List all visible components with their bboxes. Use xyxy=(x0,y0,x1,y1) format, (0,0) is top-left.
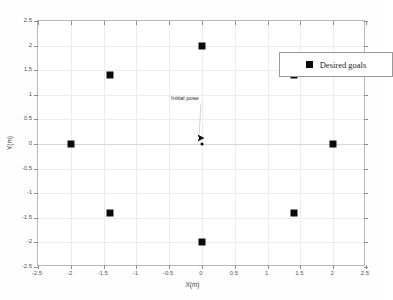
x-axis-title: X(m) xyxy=(0,281,385,288)
gridline-vertical xyxy=(136,21,137,265)
tick-y xyxy=(34,242,38,243)
tick-y xyxy=(364,21,368,22)
tick-y xyxy=(364,218,368,219)
gridline-vertical xyxy=(169,21,170,265)
x-tick-label: -2.5 xyxy=(32,270,42,276)
y-tick-label: 0 xyxy=(14,140,32,146)
tick-x xyxy=(300,265,301,269)
tick-x xyxy=(268,21,269,25)
tick-x xyxy=(268,265,269,269)
data-point-marker xyxy=(199,42,206,49)
tick-y xyxy=(364,242,368,243)
tick-y xyxy=(364,119,368,120)
tick-x xyxy=(104,21,105,25)
y-tick-label: -2 xyxy=(14,238,32,244)
tick-x xyxy=(104,265,105,269)
y-tick-label: 1.5 xyxy=(14,66,32,72)
y-tick-label: 1 xyxy=(14,91,32,97)
tick-x xyxy=(38,265,39,269)
gridline-vertical xyxy=(235,21,236,265)
x-tick-label: 2.5 xyxy=(361,270,369,276)
y-tick-label: 2 xyxy=(14,42,32,48)
tick-y xyxy=(364,169,368,170)
y-tick-label: -1 xyxy=(14,189,32,195)
tick-x xyxy=(300,21,301,25)
chart-legend: Desired goals xyxy=(279,52,393,77)
tick-x xyxy=(71,21,72,25)
tick-y xyxy=(34,95,38,96)
tick-y xyxy=(364,95,368,96)
tick-y xyxy=(34,70,38,71)
x-tick-label: 0.5 xyxy=(230,270,238,276)
initial-pose-point xyxy=(201,143,204,146)
tick-x xyxy=(169,265,170,269)
y-tick-label: -1.5 xyxy=(14,214,32,220)
x-tick-label: 0 xyxy=(199,270,202,276)
tick-x xyxy=(202,265,203,269)
tick-y xyxy=(34,193,38,194)
legend-swatch-desired-goals xyxy=(306,61,313,68)
tick-y xyxy=(364,193,368,194)
tick-x xyxy=(38,21,39,25)
gridline-horizontal xyxy=(38,218,364,219)
x-tick-label: -2 xyxy=(67,270,72,276)
tick-x xyxy=(71,265,72,269)
data-point-marker xyxy=(291,210,298,217)
tick-x xyxy=(136,21,137,25)
initial-pose-arrow-icon xyxy=(197,134,206,143)
tick-y xyxy=(34,21,38,22)
tick-y xyxy=(34,119,38,120)
x-tick-label: 2 xyxy=(331,270,334,276)
tick-y xyxy=(364,144,368,145)
initial-pose-label: Initial pose xyxy=(171,95,199,101)
gridline-vertical xyxy=(104,21,105,265)
gridline-vertical xyxy=(268,21,269,265)
gridline-horizontal xyxy=(38,193,364,194)
legend-label-desired-goals: Desired goals xyxy=(320,60,367,70)
tick-y xyxy=(34,218,38,219)
y-tick-label: -0.5 xyxy=(14,165,32,171)
tick-x xyxy=(235,21,236,25)
x-tick-label: -0.5 xyxy=(163,270,173,276)
tick-y xyxy=(364,267,368,268)
tick-x xyxy=(235,265,236,269)
tick-x xyxy=(136,265,137,269)
tick-y xyxy=(34,267,38,268)
tick-x xyxy=(333,265,334,269)
x-tick-label: 1.5 xyxy=(295,270,303,276)
tick-x xyxy=(202,21,203,25)
gridline-horizontal xyxy=(38,119,364,120)
tick-x xyxy=(333,21,334,25)
tick-y xyxy=(34,169,38,170)
tick-y xyxy=(34,144,38,145)
tick-x xyxy=(169,21,170,25)
x-tick-label: -1 xyxy=(133,270,138,276)
x-tick-label: 1 xyxy=(265,270,268,276)
y-tick-label: -2.5 xyxy=(14,263,32,269)
gridline-horizontal xyxy=(38,95,364,96)
y-tick-label: 0.5 xyxy=(14,115,32,121)
data-point-marker xyxy=(67,141,74,148)
y-tick-label: 2.5 xyxy=(14,17,32,23)
tick-y xyxy=(34,46,38,47)
tick-y xyxy=(364,46,368,47)
data-point-marker xyxy=(330,141,337,148)
plot-area: Initial pose Desired goals xyxy=(37,20,365,266)
x-tick-label: -1.5 xyxy=(97,270,107,276)
y-axis-title: Y(m) xyxy=(6,136,13,150)
data-point-marker xyxy=(106,71,113,78)
gridline-horizontal xyxy=(38,169,364,170)
data-point-marker xyxy=(199,239,206,246)
data-point-marker xyxy=(106,210,113,217)
